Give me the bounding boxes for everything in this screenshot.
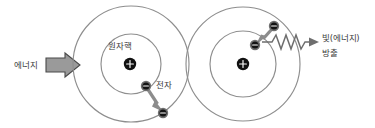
electron-icon-right-inner xyxy=(250,40,260,50)
emission-label-group: 빛(에너지) 방출 xyxy=(322,33,359,58)
nucleus-icon-right xyxy=(237,58,249,70)
nucleus-label-left: 원자핵 xyxy=(108,41,131,51)
electron-label-left: 전자 xyxy=(156,80,172,90)
atom-energy-diagram: 에너지 원자핵 xyxy=(0,0,375,128)
electron-icon-right-outer xyxy=(269,21,279,31)
absorption-atom: 원자핵 전자 xyxy=(73,6,189,122)
energy-input-label: 에너지 xyxy=(14,60,37,70)
emission-label-line2: 방출 xyxy=(322,48,338,58)
electron-icon-left-outer xyxy=(158,108,168,118)
nucleus-icon-left xyxy=(124,58,136,70)
emission-atom xyxy=(186,7,300,121)
energy-input-group: 에너지 xyxy=(14,53,80,77)
emission-label-line1: 빛(에너지) xyxy=(322,33,359,43)
energy-input-arrow-icon xyxy=(46,53,80,77)
electron-icon-left-inner xyxy=(141,81,151,91)
